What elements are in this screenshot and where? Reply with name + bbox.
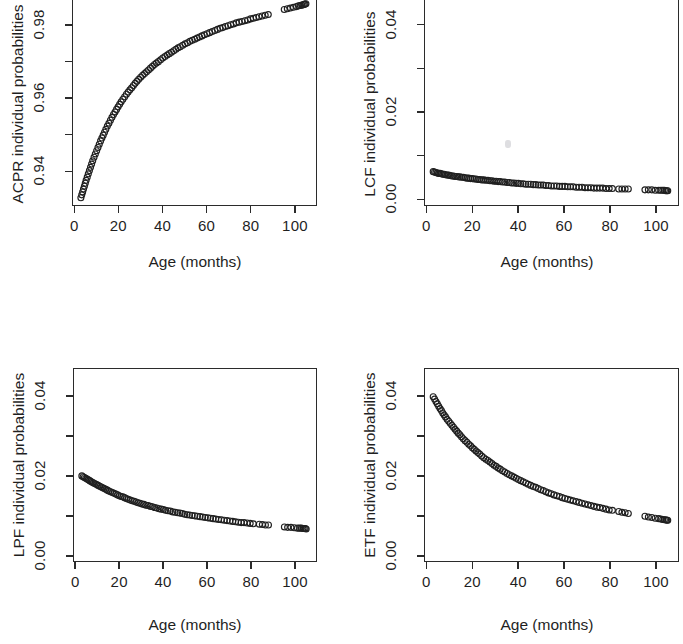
y-tick-etf: [417, 395, 424, 396]
y-minor-tick-lpf: [66, 515, 73, 516]
y-tick-lpf: [66, 475, 73, 476]
x-tick-lcf: [609, 206, 610, 213]
y-tick-label-lpf: 0.02: [31, 453, 48, 499]
x-tick-lcf: [563, 206, 564, 213]
x-tick-lcf: [655, 206, 656, 213]
x-tick-label-lpf: 100: [265, 573, 325, 590]
x-tick-lcf: [517, 206, 518, 213]
y-axis-title-lcf: LCF individual probabilities: [361, 0, 379, 211]
x-tick-lpf: [294, 562, 295, 569]
y-tick-label-acpr: 0.94: [30, 148, 47, 194]
x-tick-label-acpr: 100: [265, 217, 325, 234]
y-minor-tick-lcf: [417, 155, 424, 156]
x-axis-title-acpr: Age (months): [95, 253, 295, 271]
y-tick-lcf: [417, 24, 424, 25]
plot-area-lpf: [73, 368, 317, 562]
x-tick-acpr: [162, 206, 163, 213]
y-tick-lpf: [66, 555, 73, 556]
x-tick-label-etf: 100: [626, 573, 683, 590]
x-tick-etf: [655, 562, 656, 569]
x-tick-etf: [517, 562, 518, 569]
x-tick-lcf: [472, 206, 473, 213]
y-tick-etf: [417, 555, 424, 556]
data-points-lcf: [425, 0, 678, 205]
y-tick-label-lcf: 0.02: [382, 89, 399, 135]
plot-area-etf: [424, 368, 679, 562]
y-axis-title-lpf: LPF individual probabilities: [10, 365, 28, 565]
x-tick-etf: [609, 562, 610, 569]
y-tick-acpr: [65, 24, 72, 25]
y-tick-label-etf: 0.02: [382, 453, 399, 499]
y-tick-label-acpr: 0.96: [30, 75, 47, 121]
x-tick-etf: [472, 562, 473, 569]
plot-area-lcf: [424, 0, 679, 206]
y-tick-lpf: [66, 395, 73, 396]
y-minor-tick-etf: [417, 435, 424, 436]
x-axis-title-etf: Age (months): [447, 616, 647, 634]
x-tick-lpf: [250, 562, 251, 569]
y-tick-acpr: [65, 171, 72, 172]
x-tick-acpr: [206, 206, 207, 213]
x-axis-title-lpf: Age (months): [95, 616, 295, 634]
y-minor-tick-acpr: [65, 134, 72, 135]
y-tick-lcf: [417, 111, 424, 112]
y-minor-tick-lcf: [417, 68, 424, 69]
y-minor-tick-etf: [417, 515, 424, 516]
scan-artifact-speck: [505, 140, 511, 148]
y-tick-label-lcf: 0.00: [382, 176, 399, 222]
y-tick-label-lpf: 0.04: [31, 373, 48, 419]
x-tick-etf: [563, 562, 564, 569]
x-tick-lpf: [206, 562, 207, 569]
x-tick-lpf: [74, 562, 75, 569]
y-tick-label-lcf: 0.04: [382, 1, 399, 47]
y-tick-etf: [417, 475, 424, 476]
x-tick-lcf: [426, 206, 427, 213]
plot-area-acpr: [72, 0, 317, 206]
x-tick-acpr: [74, 206, 75, 213]
y-tick-label-acpr: 0.98: [30, 2, 47, 48]
y-tick-label-etf: 0.00: [382, 533, 399, 579]
x-tick-acpr: [250, 206, 251, 213]
y-axis-title-acpr: ACPR individual probabilities: [9, 0, 27, 211]
y-tick-label-lpf: 0.00: [31, 533, 48, 579]
y-axis-title-etf: ETF individual probabilities: [361, 365, 379, 565]
y-minor-tick-acpr: [65, 61, 72, 62]
y-tick-acpr: [65, 97, 72, 98]
data-points-acpr: [73, 0, 316, 205]
x-tick-lpf: [162, 562, 163, 569]
data-points-lpf: [74, 369, 316, 561]
y-minor-tick-lpf: [66, 435, 73, 436]
x-tick-lpf: [118, 562, 119, 569]
y-tick-label-etf: 0.04: [382, 373, 399, 419]
x-axis-title-lcf: Age (months): [447, 253, 647, 271]
x-tick-acpr: [294, 206, 295, 213]
x-tick-acpr: [118, 206, 119, 213]
x-tick-etf: [426, 562, 427, 569]
data-points-etf: [425, 369, 678, 561]
x-tick-label-lcf: 100: [626, 217, 683, 234]
y-tick-lcf: [417, 199, 424, 200]
